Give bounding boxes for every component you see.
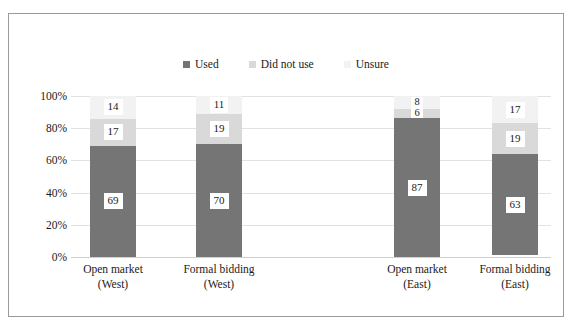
x-axis-category-labels: Open market(West)Formal bidding(West)Ope… [71, 262, 551, 308]
chart-legend: Used Did not use Unsure [9, 58, 563, 70]
x-category-label-line1: Formal bidding [450, 262, 576, 277]
legend-swatch-unsure [344, 61, 351, 68]
gridline [71, 160, 551, 161]
bar-data-label: 14 [104, 99, 123, 115]
legend-label-used: Used [195, 58, 219, 70]
y-tick-label: 40% [46, 187, 67, 199]
gridline [71, 257, 551, 258]
plot-area: 1417691119708687171963 [71, 96, 551, 257]
x-category-label-line2: (East) [450, 277, 576, 292]
bar-data-label: 11 [210, 97, 229, 113]
bar-segment[interactable]: 17 [90, 119, 136, 146]
bar-segment[interactable]: 19 [492, 123, 538, 154]
legend-swatch-used [183, 61, 190, 68]
y-tick-label: 20% [46, 219, 67, 231]
y-axis-tick-labels: 0%20%40%60%80%100% [17, 96, 67, 257]
legend-item-used[interactable]: Used [183, 58, 219, 70]
chart-figure: Used Did not use Unsure 0%20%40%60%80%10… [8, 13, 564, 317]
y-tick-label: 80% [46, 122, 67, 134]
bar-segment[interactable]: 63 [492, 154, 538, 255]
bar-segment[interactable]: 14 [90, 96, 136, 119]
bar-column[interactable]: 111970 [196, 96, 242, 257]
legend-label-unsure: Unsure [356, 58, 389, 70]
bar-data-label: 19 [506, 131, 525, 147]
bar-segment[interactable]: 87 [394, 118, 440, 257]
y-tick-label: 100% [40, 90, 67, 102]
y-tick-label: 60% [46, 154, 67, 166]
x-category-label-line1: Formal bidding [154, 262, 284, 277]
bar-data-label: 87 [408, 180, 427, 196]
gridline [71, 225, 551, 226]
bar-data-label: 17 [104, 124, 123, 140]
legend-item-unsure[interactable]: Unsure [344, 58, 389, 70]
legend-item-did-not-use[interactable]: Did not use [249, 58, 314, 70]
bar-data-label: 19 [210, 121, 229, 137]
x-category-label-line2: (West) [154, 277, 284, 292]
legend-swatch-did-not-use [249, 61, 256, 68]
bar-data-label: 70 [210, 193, 229, 209]
bar-column[interactable]: 8687 [394, 96, 440, 257]
gridline [71, 96, 551, 97]
bar-column[interactable]: 141769 [90, 96, 136, 257]
bar-segment[interactable]: 69 [90, 146, 136, 257]
bar-segment[interactable]: 70 [196, 144, 242, 257]
gridlines [71, 96, 551, 257]
bar-segment[interactable]: 11 [196, 96, 242, 114]
bar-column[interactable]: 171963 [492, 96, 538, 257]
bar-data-label: 6 [411, 108, 422, 119]
x-category-label: Formal bidding(West) [154, 262, 284, 292]
bar-data-label: 17 [506, 102, 525, 118]
bar-data-label: 8 [411, 97, 422, 108]
gridline [71, 193, 551, 194]
bar-segment[interactable]: 17 [492, 96, 538, 123]
bar-data-label: 63 [506, 197, 525, 213]
bar-segment[interactable]: 19 [196, 114, 242, 145]
gridline [71, 128, 551, 129]
x-category-label: Formal bidding(East) [450, 262, 576, 292]
bar-segment[interactable]: 6 [394, 109, 440, 119]
bar-data-label: 69 [104, 193, 123, 209]
legend-label-did-not-use: Did not use [261, 58, 314, 70]
